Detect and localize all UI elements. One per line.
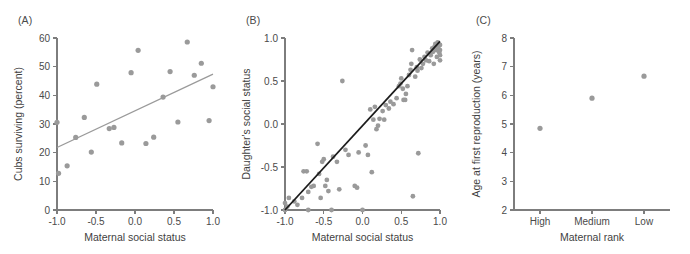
data-point	[435, 55, 440, 60]
x-tick-label: 0.5	[167, 216, 181, 227]
data-point	[386, 106, 391, 111]
y-tick-label: 0.0	[264, 119, 278, 130]
data-point	[404, 92, 409, 97]
data-point	[136, 48, 141, 53]
data-point	[326, 189, 331, 194]
data-point	[318, 196, 323, 201]
data-point	[129, 70, 134, 75]
data-point	[360, 208, 365, 213]
data-point	[306, 190, 311, 195]
y-tick-label: 6	[501, 90, 507, 101]
data-point	[286, 196, 291, 201]
data-point	[431, 61, 436, 66]
x-tick-label: 0.5	[394, 216, 408, 227]
data-point	[373, 104, 378, 109]
y-tick-label: 50	[39, 61, 51, 72]
x-axis-title: Maternal social status	[312, 231, 414, 243]
data-point	[306, 208, 311, 213]
data-point	[380, 109, 385, 114]
data-point	[315, 141, 320, 146]
data-point	[335, 159, 340, 164]
y-tick-label: 3	[501, 176, 507, 187]
panel-c: (C) 2345678HighMediumLowMaternal rankAge…	[462, 0, 690, 254]
y-tick-label: 8	[501, 33, 507, 44]
data-point	[168, 69, 173, 74]
y-tick-label: 2	[501, 205, 507, 216]
data-point	[151, 135, 156, 140]
data-point	[199, 61, 204, 66]
panel-c-plot: 2345678HighMediumLowMaternal rankAge at …	[462, 0, 690, 254]
y-tick-label: -1.0	[261, 205, 279, 216]
x-tick-label: 1.0	[433, 216, 447, 227]
data-point	[427, 59, 432, 64]
data-point	[295, 202, 300, 207]
data-point	[403, 98, 408, 103]
panel-b-plot: -1.0-0.50.00.51.0-1.0-0.50.00.51.0Matern…	[228, 0, 460, 254]
data-point	[382, 117, 387, 122]
data-point	[304, 169, 309, 174]
data-point	[410, 48, 415, 53]
y-tick-label: 1.0	[264, 33, 278, 44]
y-tick-label: 0.5	[264, 76, 278, 87]
data-point	[416, 151, 421, 156]
data-point	[210, 84, 215, 89]
data-point	[368, 107, 373, 112]
data-point	[400, 86, 405, 91]
data-point	[369, 170, 374, 175]
x-tick-label: 1.0	[206, 216, 220, 227]
panel-a-plot: 0102030405060-1.0-0.50.00.51.0Maternal s…	[0, 0, 232, 254]
data-point	[641, 74, 646, 79]
y-tick-label: -0.5	[261, 162, 279, 173]
data-point	[329, 208, 334, 213]
data-point	[340, 79, 345, 84]
x-tick-label: 0.0	[128, 216, 142, 227]
data-point	[394, 96, 399, 101]
panel-b: (B) -1.0-0.50.00.51.0-1.0-0.50.00.51.0Ma…	[228, 0, 460, 254]
data-point	[119, 140, 124, 145]
data-point	[355, 185, 360, 190]
y-tick-label: 5	[501, 119, 507, 130]
data-point	[537, 126, 542, 131]
data-point	[346, 153, 351, 158]
data-point	[413, 74, 418, 79]
panel-a: (A) 0102030405060-1.0-0.50.00.51.0Matern…	[0, 0, 232, 254]
y-tick-label: 60	[39, 33, 51, 44]
data-point	[73, 135, 78, 140]
data-point	[589, 96, 594, 101]
data-point	[107, 126, 112, 131]
data-point	[371, 117, 376, 122]
data-point	[311, 184, 316, 189]
data-point	[54, 120, 59, 125]
data-point	[89, 149, 94, 154]
data-point	[321, 157, 326, 162]
x-tick-label: -0.5	[315, 216, 333, 227]
data-point	[94, 82, 99, 87]
y-axis-title: Cubs surviving (percent)	[12, 67, 24, 181]
y-tick-label: 20	[39, 147, 51, 158]
y-tick-label: 30	[39, 119, 51, 130]
data-point	[82, 115, 87, 120]
data-point	[324, 178, 329, 183]
data-point	[410, 194, 415, 199]
data-point	[143, 141, 148, 146]
data-point	[185, 39, 190, 44]
x-tick-label: Low	[635, 216, 654, 227]
data-point	[207, 118, 212, 123]
data-point	[409, 61, 414, 66]
x-tick-label: Medium	[574, 216, 610, 227]
axis-lines	[57, 38, 213, 210]
y-axis-title: Age at first reproduction (years)	[470, 50, 482, 197]
x-tick-label: 0.0	[356, 216, 370, 227]
x-axis-title: Maternal rank	[560, 231, 625, 243]
data-point	[366, 153, 371, 158]
data-point	[356, 150, 361, 155]
data-point	[323, 184, 328, 189]
regression-line	[57, 74, 213, 147]
data-point	[405, 84, 410, 89]
y-tick-label: 0	[44, 205, 50, 216]
data-point	[192, 73, 197, 78]
figure-container: (A) 0102030405060-1.0-0.50.00.51.0Matern…	[0, 0, 690, 254]
x-tick-label: High	[530, 216, 551, 227]
x-axis-title: Maternal social status	[84, 231, 186, 243]
data-point	[343, 147, 348, 152]
